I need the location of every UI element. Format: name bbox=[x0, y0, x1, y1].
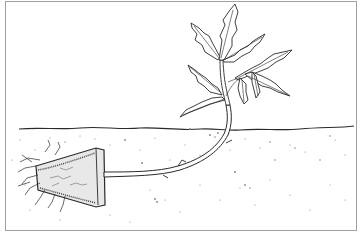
tomato-planting-illustration bbox=[0, 0, 361, 233]
illustration-frame bbox=[0, 0, 361, 233]
